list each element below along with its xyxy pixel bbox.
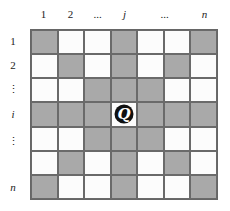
empty-cell — [58, 175, 85, 199]
attacked-cell — [58, 54, 85, 78]
empty-cell — [84, 54, 111, 78]
attacked-cell — [84, 127, 111, 151]
attacked-cell — [111, 127, 138, 151]
attacked-cell — [111, 151, 138, 175]
empty-cell — [190, 54, 217, 78]
empty-cell — [137, 151, 164, 175]
attacked-cell — [164, 54, 191, 78]
empty-cell — [31, 151, 58, 175]
col-label-2: 2 — [57, 8, 84, 20]
empty-cell — [190, 151, 217, 175]
attacked-cell — [164, 151, 191, 175]
attacked-cell — [137, 127, 164, 151]
empty-cell — [190, 78, 217, 102]
attacked-cell — [84, 78, 111, 102]
attacked-cell — [190, 175, 217, 199]
attacked-cell — [111, 175, 138, 199]
empty-cell — [164, 30, 191, 54]
empty-cell — [164, 127, 191, 151]
row-label-2: 2 — [0, 59, 26, 71]
col-label-ellipsis-1: ... — [84, 8, 111, 20]
queen-icon: Q — [114, 105, 133, 124]
attacked-cell — [84, 102, 111, 126]
attacked-cell — [31, 102, 58, 126]
attacked-cell — [190, 30, 217, 54]
row-label-n: n — [0, 181, 26, 193]
attacked-cell — [111, 30, 138, 54]
attacked-cell — [190, 102, 217, 126]
empty-cell — [137, 54, 164, 78]
queen-cell: Q — [111, 102, 138, 126]
chessboard-grid: Q — [30, 29, 218, 200]
empty-cell — [190, 127, 217, 151]
empty-cell — [31, 127, 58, 151]
attacked-cell — [137, 78, 164, 102]
row-label-vdots-2: ⋮ — [0, 135, 26, 148]
attacked-cell — [58, 102, 85, 126]
empty-cell — [31, 54, 58, 78]
empty-cell — [58, 127, 85, 151]
col-label-ellipsis-2: ... — [151, 8, 178, 20]
empty-cell — [58, 30, 85, 54]
empty-cell — [84, 30, 111, 54]
empty-cell — [84, 151, 111, 175]
empty-cell — [164, 78, 191, 102]
attacked-cell — [111, 78, 138, 102]
empty-cell — [137, 30, 164, 54]
attacked-cell — [111, 54, 138, 78]
empty-cell — [58, 78, 85, 102]
attacked-cell — [58, 151, 85, 175]
attacked-cell — [31, 30, 58, 54]
row-label-1: 1 — [0, 35, 26, 47]
row-label-i: i — [0, 108, 26, 120]
empty-cell — [137, 175, 164, 199]
attacked-cell — [137, 102, 164, 126]
col-label-j: j — [111, 8, 138, 20]
col-label-n: n — [191, 8, 218, 20]
attacked-cell — [31, 175, 58, 199]
attacked-cell — [164, 102, 191, 126]
col-label-1: 1 — [30, 8, 57, 20]
empty-cell — [164, 175, 191, 199]
empty-cell — [84, 175, 111, 199]
row-label-vdots-1: ⋮ — [0, 83, 26, 96]
empty-cell — [31, 78, 58, 102]
